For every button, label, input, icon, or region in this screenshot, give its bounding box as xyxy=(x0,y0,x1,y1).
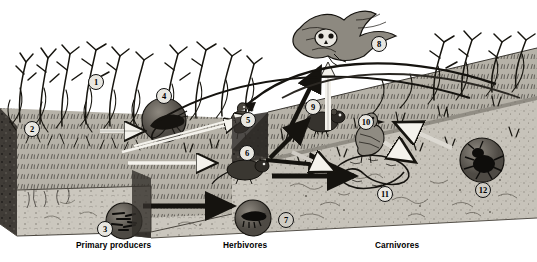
marker-4[interactable]: 4 xyxy=(156,88,172,104)
marker-8[interactable]: 8 xyxy=(371,36,387,52)
label-herbivores: Herbivores xyxy=(223,240,267,250)
marker-6[interactable]: 6 xyxy=(239,145,255,161)
marker-2[interactable]: 2 xyxy=(24,121,40,137)
inset-beetle xyxy=(460,138,504,182)
block-divider-left xyxy=(132,170,151,238)
label-primary-producers: Primary producers xyxy=(76,240,151,250)
food-web-illustration: 1 2 3 4 5 6 7 8 9 10 11 12 Primary produ… xyxy=(0,0,537,262)
marker-11[interactable]: 11 xyxy=(377,186,393,202)
marker-7[interactable]: 7 xyxy=(278,212,294,228)
marker-5[interactable]: 5 xyxy=(240,112,256,128)
inset-larva xyxy=(235,200,271,236)
marker-3[interactable]: 3 xyxy=(97,221,113,237)
marker-1[interactable]: 1 xyxy=(88,74,104,90)
marker-12[interactable]: 12 xyxy=(475,182,491,198)
illustration-canvas xyxy=(0,0,537,262)
marker-10[interactable]: 10 xyxy=(358,114,374,130)
label-carnivores: Carnivores xyxy=(375,240,419,250)
marker-9[interactable]: 9 xyxy=(305,99,321,115)
